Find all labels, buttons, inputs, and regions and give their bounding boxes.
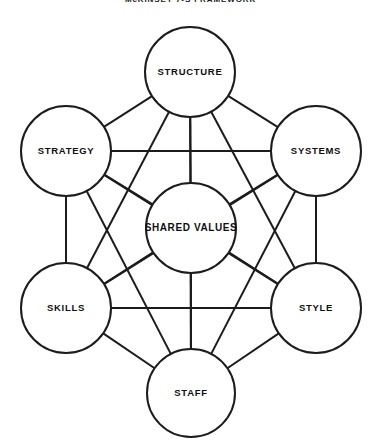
- node-label-staff: STAFF: [174, 387, 207, 398]
- node-structure[interactable]: STRUCTURE: [145, 27, 235, 117]
- node-label-skills: SKILLS: [47, 302, 85, 313]
- connection-line-style-to-shared_values: [229, 252, 278, 283]
- node-label-structure: STRUCTURE: [158, 66, 223, 77]
- node-circles-group: STRUCTURESYSTEMSSTYLESTAFFSKILLSSTRATEGY…: [21, 27, 361, 437]
- node-label-style: STYLE: [299, 302, 333, 313]
- page-title: McKINSEY 7-S FRAMEWORK: [0, 0, 381, 4]
- connection-line-structure-to-strategy: [104, 96, 152, 127]
- connection-line-staff-to-skills: [103, 333, 154, 368]
- node-label-shared_values: SHARED VALUES: [145, 222, 238, 233]
- connection-line-style-to-staff: [227, 333, 278, 368]
- node-systems[interactable]: SYSTEMS: [271, 106, 361, 196]
- node-staff[interactable]: STAFF: [147, 349, 235, 437]
- node-label-strategy: STRATEGY: [38, 145, 95, 156]
- node-style[interactable]: STYLE: [271, 263, 361, 353]
- seven-s-framework-diagram: STRUCTURESYSTEMSSTYLESTAFFSKILLSSTRATEGY…: [0, 0, 381, 446]
- connection-line-structure-to-systems: [228, 96, 278, 127]
- connection-line-systems-to-shared_values: [229, 175, 277, 205]
- connection-line-strategy-to-shared_values: [104, 175, 152, 205]
- node-label-systems: SYSTEMS: [291, 145, 341, 156]
- diagram-page: McKINSEY 7-S FRAMEWORK STRUCTURESYSTEMSS…: [0, 0, 381, 446]
- node-skills[interactable]: SKILLS: [21, 263, 111, 353]
- node-shared_values[interactable]: SHARED VALUES: [145, 183, 238, 273]
- node-strategy[interactable]: STRATEGY: [21, 106, 111, 196]
- title-clip-region: McKINSEY 7-S FRAMEWORK: [0, 0, 381, 6]
- connection-line-skills-to-shared_values: [104, 252, 153, 283]
